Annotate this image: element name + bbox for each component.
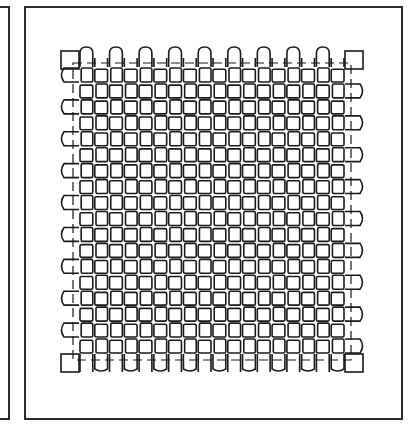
woven-mat-diagram [0, 0, 414, 436]
weave-strands [80, 68, 344, 353]
